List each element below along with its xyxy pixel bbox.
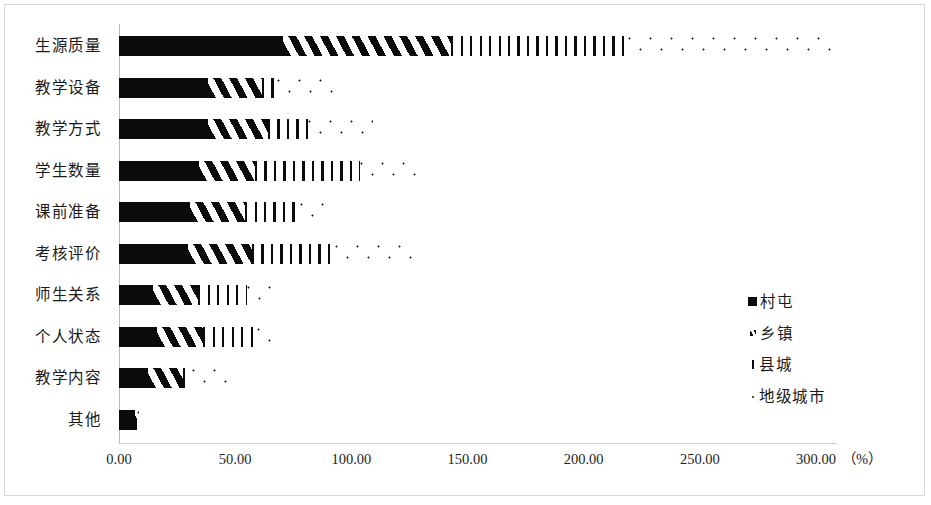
bar-segment-县城: [245, 202, 300, 222]
x-tick-label: 150.00: [448, 452, 488, 467]
bar-segment-县城: [268, 119, 308, 139]
legend-label: 村屯: [760, 294, 793, 310]
x-tick-label: 300.00: [796, 452, 836, 467]
bar-row: [119, 327, 839, 347]
bar-segment-村屯: [119, 78, 208, 98]
bar-row: [119, 119, 839, 139]
category-label: 课前准备: [35, 204, 101, 220]
legend-swatch-icon: [752, 360, 754, 369]
bar-segment-县城: [262, 78, 277, 98]
legend-swatch-icon: [750, 330, 756, 336]
bar-segment-地级城市: [628, 36, 838, 56]
bar-segment-村屯: [119, 410, 135, 430]
category-label: 教学内容: [35, 370, 101, 386]
legend-label: 县城: [759, 357, 792, 373]
category-axis-labels: 生源质量教学设备教学方式学生数量课前准备考核评价师生关系个人状态教学内容其他: [0, 24, 110, 443]
bar-segment-县城: [183, 368, 192, 388]
plot-area: [119, 24, 839, 443]
x-axis-line: [119, 443, 837, 444]
bar-segment-乡镇: [188, 244, 252, 264]
bar-segment-村屯: [119, 244, 188, 264]
bar-segment-地级城市: [137, 410, 139, 430]
legend-swatch-icon: [748, 297, 757, 306]
bar-segment-地级城市: [247, 285, 277, 305]
bar-segment-县城: [198, 285, 247, 305]
category-label: 教学方式: [35, 121, 101, 137]
bar-segment-县城: [255, 161, 360, 181]
category-label: 考核评价: [35, 246, 101, 262]
x-tick-label: 50.00: [219, 452, 252, 467]
legend-label: 地级城市: [759, 389, 825, 405]
x-tick-label: 100.00: [331, 452, 371, 467]
bar-segment-村屯: [119, 327, 157, 347]
category-label: 教学设备: [35, 80, 101, 96]
bar-segment-乡镇: [283, 36, 451, 56]
bar-segment-县城: [451, 36, 628, 56]
category-label: 其他: [68, 412, 101, 428]
bar-segment-地级城市: [308, 119, 373, 139]
bar-segment-地级城市: [277, 78, 340, 98]
bar-segment-地级城市: [335, 244, 413, 264]
bar-segment-村屯: [119, 202, 190, 222]
chart-legend: 村屯乡镇县城地级城市: [748, 286, 918, 412]
bar-row: [119, 161, 839, 181]
legend-item: 地级城市: [748, 381, 918, 413]
bar-segment-地级城市: [257, 327, 277, 347]
bar-row: [119, 368, 839, 388]
bar-segment-乡镇: [190, 202, 245, 222]
legend-item: 县城: [748, 349, 918, 381]
bar-segment-村屯: [119, 285, 153, 305]
bar-segment-村屯: [119, 161, 199, 181]
bar-segment-乡镇: [148, 368, 183, 388]
legend-label: 乡镇: [760, 326, 793, 342]
bar-row: [119, 410, 839, 430]
bar-segment-乡镇: [199, 161, 255, 181]
bar-segment-地级城市: [300, 202, 330, 222]
x-tick-label: 200.00: [564, 452, 604, 467]
legend-swatch-icon: [752, 396, 754, 398]
bar-row: [119, 78, 839, 98]
bar-row: [119, 36, 839, 56]
bar-segment-乡镇: [208, 78, 262, 98]
x-axis-unit-label: （%）: [842, 452, 882, 467]
stacked-bar-chart: 生源质量教学设备教学方式学生数量课前准备考核评价师生关系个人状态教学内容其他 0…: [0, 0, 931, 505]
x-axis-tick-labels: 0.0050.00100.00150.00200.00250.00300.00（…: [0, 452, 931, 474]
bar-segment-县城: [203, 327, 257, 347]
bar-segment-乡镇: [208, 119, 268, 139]
legend-item: 乡镇: [748, 318, 918, 350]
category-label: 师生关系: [35, 287, 101, 303]
bar-segment-县城: [252, 244, 335, 264]
x-tick-label: 250.00: [680, 452, 720, 467]
bar-segment-地级城市: [192, 368, 227, 388]
bar-segment-地级城市: [360, 161, 423, 181]
category-label: 个人状态: [35, 329, 101, 345]
bar-segment-村屯: [119, 36, 283, 56]
category-label: 学生数量: [35, 163, 101, 179]
bar-segment-村屯: [119, 119, 208, 139]
bar-row: [119, 244, 839, 264]
legend-item: 村屯: [748, 286, 918, 318]
bar-row: [119, 202, 839, 222]
bar-segment-村屯: [119, 368, 148, 388]
bar-segment-乡镇: [153, 285, 198, 305]
category-label: 生源质量: [35, 38, 101, 54]
x-tick-label: 0.00: [106, 452, 131, 467]
bar-row: [119, 285, 839, 305]
bar-segment-乡镇: [157, 327, 203, 347]
